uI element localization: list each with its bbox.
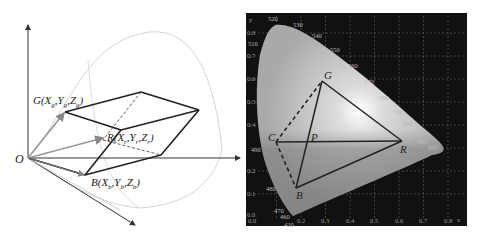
g-vector-arrow [28,113,64,158]
point-label-p: P [310,131,318,143]
wl-510: 510 [248,40,258,47]
g-vector-label: G(Xg,Yg,Zg) [33,94,84,109]
y-tick-7: 0.7 [247,52,256,59]
b-vector-arrow [28,158,84,175]
y-tick-8: 0.8 [247,29,255,36]
point-label-r: R [399,143,407,155]
b-vector-label: B(Xb,Yb,Zb) [91,176,140,191]
chromaticity-chart: G R B C P 420 460 470 480 490 510 520 53… [246,13,467,228]
point-label-g: G [324,69,332,81]
y-tick-6: 0.6 [247,75,256,82]
y-tick-4: 0.4 [247,121,256,128]
x-tick-0: 0.0 [248,217,256,224]
r-vector-label: R(Xr,Yr,Zr) [106,131,154,146]
figure: O G(Xg,Yg,Zg) R(Xr,Yr,Zr) B(Xb,Yb,Zb) [0,0,483,237]
x-tick-7: 0.7 [419,217,428,224]
wl-560: 560 [348,62,358,69]
x-tick-2: 0.2 [297,217,305,224]
wl-550: 550 [330,46,340,53]
wl-680: 680 [428,144,438,151]
wl-490: 490 [251,146,261,153]
r-vector-arrow [28,138,103,158]
point-label-b: B [296,189,303,201]
wl-460: 460 [280,213,290,220]
y-tick-5: 0.5 [247,98,255,105]
hidden-edges [103,92,161,155]
x-tick-8: 0.8 [444,217,452,224]
wl-480: 480 [266,185,276,192]
y-tick-1: 0.1 [247,190,255,197]
wl-420: 420 [284,221,294,228]
y-tick-2: 0.2 [247,167,255,174]
x-tick-4: 0.4 [346,217,355,224]
tristimulus-space-diagram: O G(Xg,Yg,Zg) R(Xr,Yr,Zr) B(Xb,Yb,Zb) [15,25,240,225]
origin-label: O [15,152,24,166]
wl-600: 600 [403,120,413,127]
wl-610: 610 [411,129,421,136]
wl-470: 470 [274,207,284,214]
x-tick-6: 0.6 [395,217,404,224]
wl-570: 570 [364,78,374,85]
wl-540: 540 [312,32,322,39]
wl-580: 580 [379,94,389,101]
z-axis [28,158,135,225]
x-tick-5: 0.5 [370,217,378,224]
wl-530: 530 [293,21,303,28]
x-tick-3: 0.3 [321,217,329,224]
wl-630: 630 [418,138,428,145]
point-label-c: C [268,131,276,143]
wl-590: 590 [393,108,403,115]
wl-520: 520 [268,15,278,22]
y-tick-0: 0.0 [247,211,255,218]
